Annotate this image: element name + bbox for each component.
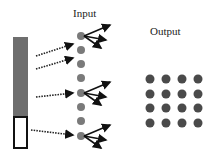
input-bar xyxy=(13,37,28,148)
input-dots xyxy=(77,32,85,140)
fanout-arrows xyxy=(84,25,110,148)
output-grid xyxy=(146,75,203,128)
dotted-arrows xyxy=(31,44,73,135)
diagram-canvas xyxy=(0,0,219,159)
